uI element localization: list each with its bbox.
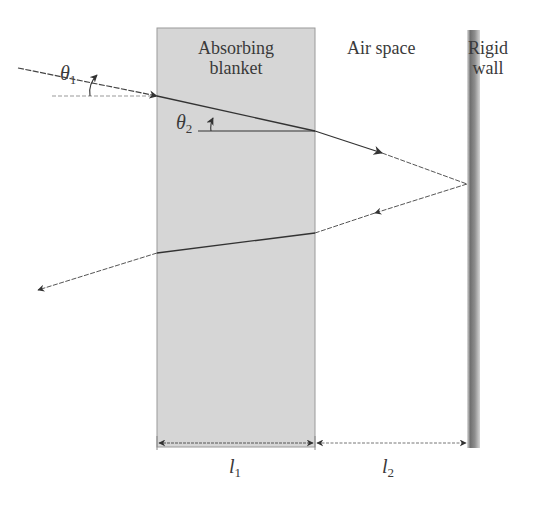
blanket-label: Absorbing blanket [157, 38, 315, 78]
theta1-subscript: 1 [70, 72, 77, 87]
l2-label: l2 [382, 456, 394, 483]
theta2-subscript: 2 [186, 121, 193, 136]
theta1-label: θ1 [60, 63, 76, 90]
absorbing-blanket [157, 28, 315, 447]
l1-label: l1 [229, 456, 241, 483]
air-ray-forward-b [382, 153, 467, 184]
theta2-symbol: θ [176, 111, 186, 133]
incident-ray [18, 68, 157, 96]
rigid-wall [467, 30, 480, 448]
wall-label: Rigid wall [465, 38, 511, 78]
air-ray-forward-a [315, 131, 382, 153]
l2-subscript: 2 [388, 465, 395, 480]
theta1-arc [90, 75, 97, 96]
theta1-symbol: θ [60, 62, 70, 84]
theta2-label: θ2 [176, 112, 192, 139]
reflected-ray-b [315, 213, 375, 233]
wall-label-line1: Rigid [465, 38, 511, 58]
air-space-label: Air space [347, 38, 415, 58]
wall-label-line2: wall [465, 58, 511, 78]
l1-subscript: 1 [235, 465, 242, 480]
blanket-label-line2: blanket [157, 58, 315, 78]
exit-ray [38, 253, 157, 290]
reflected-ray-a [375, 184, 467, 213]
blanket-label-line1: Absorbing [157, 38, 315, 58]
